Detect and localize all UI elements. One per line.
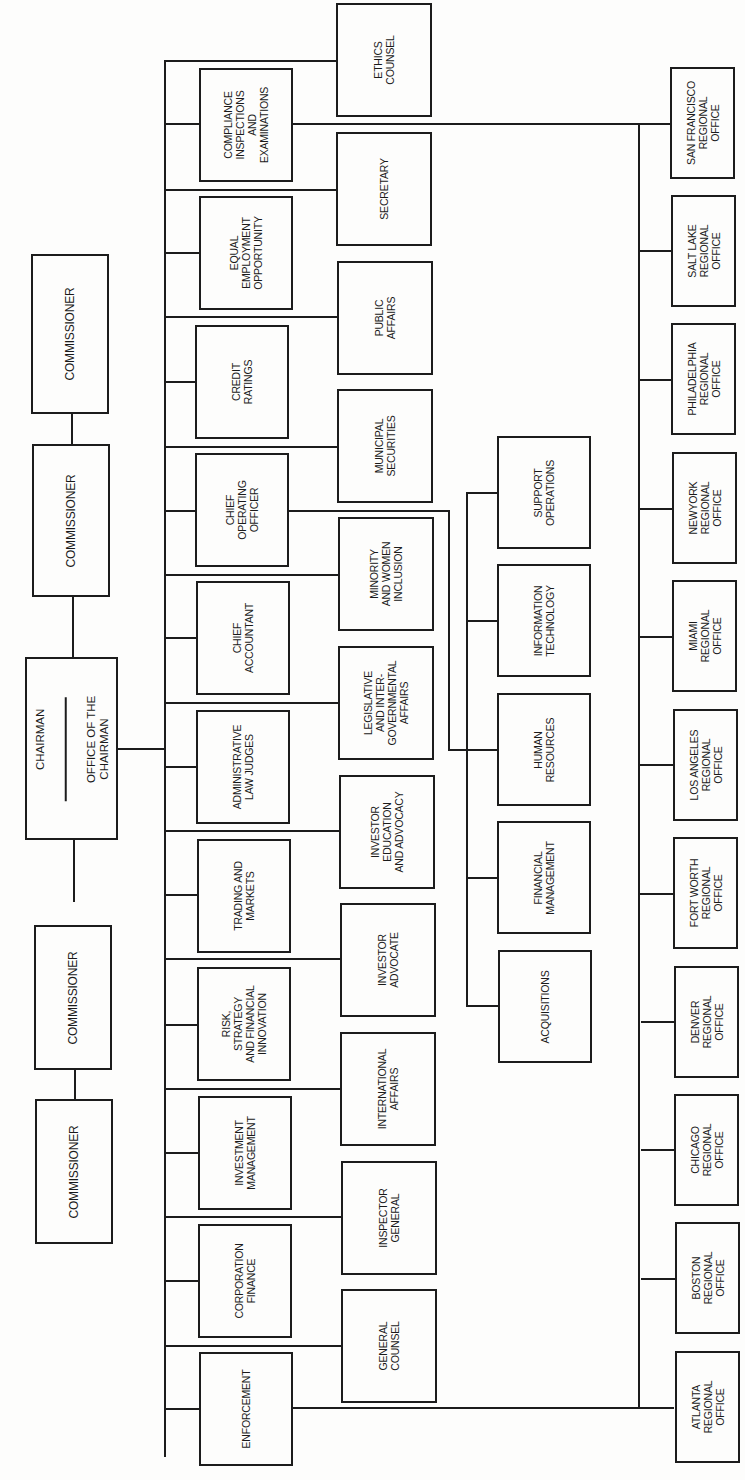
regional-office-label: SAN FRANCISCO REGIONAL OFFICE	[685, 81, 721, 165]
stub-support-operations	[466, 492, 498, 494]
stub-philadelphia	[638, 379, 672, 381]
connector-chairman-to-bus	[117, 748, 166, 750]
stub-information-technology	[466, 620, 498, 622]
stub-fort-worth	[640, 893, 674, 895]
coo-connector-down	[448, 510, 450, 751]
commissioner-label: COMMISSIONER	[66, 951, 80, 1044]
office-minority-women-inclusion: MINORITY AND WOMEN INCLUSION	[338, 517, 434, 631]
office-legislative-intergovernmental: LEGISLATIVE AND INTER- GOVERNMENTAL AFFA…	[338, 646, 434, 760]
office-general-counsel: GENERAL COUNSEL	[341, 1289, 437, 1403]
enforcement-to-regional-bus	[292, 1407, 674, 1409]
office-label: INVESTOR ADVOCATE	[376, 932, 400, 987]
division-label: TRADING AND MARKETS	[232, 861, 256, 931]
commissioner-label: COMMISSIONER	[64, 474, 78, 567]
stub-financial-management	[466, 877, 498, 879]
regional-office-boston: BOSTON REGIONAL OFFICE	[675, 1222, 740, 1334]
stub-chief-accountant	[164, 637, 200, 639]
compliance-to-regional-bus	[292, 123, 672, 125]
office-label: MINORITY AND WOMEN INCLUSION	[368, 542, 404, 607]
coo-office-label: SUPPORT OPERATIONS	[532, 459, 556, 525]
stub-compliance	[164, 123, 200, 125]
office-label: SECRETARY	[378, 158, 390, 219]
coo-office-label: INFORMATION TECHNOLOGY	[532, 585, 556, 657]
office-label: MUNICIPAL SECURITIES	[373, 415, 397, 476]
stub-acquisitions	[466, 1005, 498, 1007]
regional-office-label: ATLANTA REGIONAL OFFICE	[690, 1381, 726, 1434]
coo-connector-to-hr	[448, 749, 498, 751]
commissioner-box-1: COMMISSIONER	[31, 254, 109, 414]
stub-miami	[639, 636, 673, 638]
stub-salt-lake	[638, 250, 672, 252]
coo-office-label: HUMAN RESOURCES	[532, 717, 556, 782]
stub-chicago	[641, 1149, 675, 1151]
regional-office-san-francisco: SAN FRANCISCO REGIONAL OFFICE	[670, 67, 735, 179]
division-label: COMPLIANCE INSPECTIONS AND EXAMINATIONS	[222, 87, 270, 163]
office-inspector-general: INSPECTOR GENERAL	[341, 1161, 437, 1275]
regional-office-label: BOSTON REGIONAL OFFICE	[690, 1252, 726, 1305]
coo-office-label: ACQUISITIONS	[539, 970, 551, 1043]
division-label: CHIEF OPERATING OFFICER	[224, 480, 260, 539]
stub-investor-education	[164, 830, 340, 832]
stub-municipal-securities	[164, 446, 339, 448]
division-label: RISK, STRATEGY AND FINANCIAL INNOVATION	[220, 985, 268, 1062]
regional-office-philadelphia: PHILADELPHIA REGIONAL OFFICE	[671, 323, 736, 435]
chairman-divider	[64, 697, 66, 801]
coo-office-information-technology: INFORMATION TECHNOLOGY	[497, 564, 591, 677]
coo-office-acquisitions: ACQUISITIONS	[498, 950, 592, 1063]
division-corporation-finance: CORPORATION FINANCE	[198, 1224, 292, 1338]
coo-office-label: FINANCIAL MANAGEMENT	[532, 841, 556, 914]
stub-enforcement	[164, 1408, 200, 1410]
regional-office-los-angeles: LOS ANGELES REGIONAL OFFICE	[673, 709, 738, 821]
division-risk-strategy: RISK, STRATEGY AND FINANCIAL INNOVATION	[197, 967, 291, 1081]
regional-bus	[638, 123, 640, 1409]
chairman-title: CHAIRMAN	[33, 708, 45, 769]
regional-office-salt-lake: SALT LAKE REGIONAL OFFICE	[671, 195, 736, 307]
division-administrative-law-judges: ADMINISTRATIVE LAW JUDGES	[196, 710, 290, 824]
regional-office-label: MIAMI REGIONAL OFFICE	[687, 610, 723, 663]
division-investment-management: INVESTMENT MANAGEMENT	[198, 1096, 292, 1210]
office-investor-education: INVESTOR EDUCATION AND ADVOCACY	[339, 775, 435, 889]
regional-office-label: CHICAGO REGIONAL OFFICE	[689, 1124, 725, 1177]
connector-commissioner-1-2	[71, 413, 73, 447]
division-label: INVESTMENT MANAGEMENT	[233, 1116, 257, 1189]
coo-office-human-resources: HUMAN RESOURCES	[497, 693, 591, 806]
office-label: INTERNATIONAL AFFAIRS	[376, 1049, 400, 1130]
connector-chairman-commissioner-3	[73, 840, 75, 902]
division-label: EQUAL EMPLOYMENT OPPORTUNITY	[228, 216, 264, 289]
stub-international-affairs	[164, 1088, 341, 1090]
connector-commissioner-2-chairman	[72, 595, 74, 657]
chairman-box: CHAIRMAN OFFICE OF THE CHAIRMAN	[25, 657, 118, 840]
stub-minority-women	[164, 574, 339, 576]
regional-office-fort-worth: FORT WORTH REGIONAL OFFICE	[673, 837, 738, 949]
division-compliance-inspections: COMPLIANCE INSPECTIONS AND EXAMINATIONS	[199, 68, 293, 182]
division-label: CORPORATION FINANCE	[233, 1243, 257, 1318]
regional-office-denver: DENVER REGIONAL OFFICE	[674, 966, 739, 1078]
office-international-affairs: INTERNATIONAL AFFAIRS	[340, 1032, 436, 1146]
division-equal-employment: EQUAL EMPLOYMENT OPPORTUNITY	[199, 196, 293, 310]
commissioner-box-2: COMMISSIONER	[32, 444, 110, 597]
division-label: ENFORCEMENT	[240, 1370, 252, 1449]
stub-corporation-finance	[164, 1280, 200, 1282]
regional-office-label: LOS ANGELES REGIONAL OFFICE	[688, 730, 724, 801]
division-label: ADMINISTRATIVE LAW JUDGES	[231, 725, 255, 810]
regional-office-label: DENVER REGIONAL OFFICE	[689, 996, 725, 1049]
regional-office-label: NEWYORK REGIONAL OFFICE	[687, 482, 723, 535]
office-label: INVESTOR EDUCATION AND ADVOCACY	[369, 791, 405, 872]
office-ethics-counsel: ETHICS COUNSEL	[336, 3, 432, 117]
connector-commissioner-3-4	[74, 1068, 76, 1100]
division-enforcement: ENFORCEMENT	[199, 1352, 293, 1466]
office-investor-advocate: INVESTOR ADVOCATE	[340, 903, 436, 1017]
office-municipal-securities: MUNICIPAL SECURITIES	[337, 389, 433, 503]
office-label: ETHICS COUNSEL	[372, 35, 396, 84]
regional-office-label: SALT LAKE REGIONAL OFFICE	[686, 224, 722, 277]
coo-connector-out	[288, 510, 450, 512]
stub-trading-markets	[164, 894, 200, 896]
division-label: CHIEF ACCOUNTANT	[231, 603, 255, 673]
division-chief-operating-officer: CHIEF OPERATING OFFICER	[195, 453, 289, 567]
coo-sub-bus	[466, 492, 468, 1007]
stub-new-york	[639, 508, 673, 510]
division-credit-ratings: CREDIT RATINGS	[195, 325, 289, 439]
stub-alj	[164, 766, 200, 768]
commissioner-box-3: COMMISSIONER	[34, 925, 112, 1070]
division-trading-and-markets: TRADING AND MARKETS	[197, 839, 291, 953]
